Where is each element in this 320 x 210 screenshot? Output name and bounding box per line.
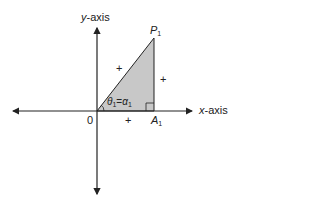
opposite-sign: + bbox=[160, 74, 166, 85]
point-p1-label: P1 bbox=[150, 25, 161, 37]
origin-label: 0 bbox=[87, 115, 93, 126]
y-axis-label: y-axis bbox=[81, 12, 110, 23]
angle-label: θ1=α1 bbox=[107, 97, 132, 108]
point-a1-label: A1 bbox=[151, 115, 162, 127]
hypotenuse-sign: + bbox=[116, 63, 122, 74]
adjacent-sign: + bbox=[125, 115, 131, 126]
x-axis-label: x-axis bbox=[199, 105, 228, 116]
